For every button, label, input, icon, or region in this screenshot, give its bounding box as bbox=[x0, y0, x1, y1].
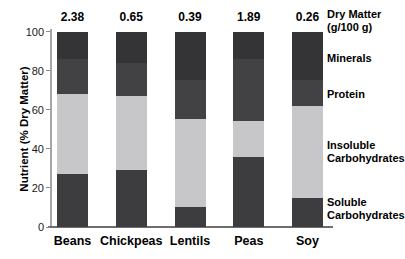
y-axis-line bbox=[50, 29, 52, 227]
legend-insoluble-line1: Insoluble bbox=[327, 139, 405, 152]
y-tick-mark bbox=[46, 70, 50, 71]
dry-matter-value: 2.38 bbox=[51, 11, 95, 24]
y-tick-mark bbox=[46, 227, 50, 228]
y-tick-label: 100 bbox=[14, 27, 44, 38]
x-category-label: Soy bbox=[272, 235, 344, 248]
dry-matter-header-line2: (g/100 g) bbox=[327, 21, 372, 34]
bar-segment-minerals bbox=[233, 32, 264, 59]
bar-segment-protein bbox=[116, 63, 147, 96]
bar-segment-soluble-carbohydrates bbox=[57, 174, 88, 227]
y-tick-mark bbox=[46, 31, 50, 32]
y-tick-label: 40 bbox=[14, 144, 44, 155]
legend-soluble-line1: Soluble bbox=[327, 196, 405, 209]
y-tick-label: 0 bbox=[14, 222, 44, 233]
bar-segment-soluble-carbohydrates bbox=[292, 198, 323, 227]
legend-insoluble-line2: Carbohydrates bbox=[327, 152, 405, 165]
bar-segment-minerals bbox=[116, 32, 147, 63]
bar-segment-insoluble-carbohydrates bbox=[175, 119, 206, 207]
dry-matter-value: 0.26 bbox=[286, 11, 330, 24]
y-tick-label: 80 bbox=[14, 66, 44, 77]
dry-matter-value: 1.89 bbox=[227, 11, 271, 24]
bar-segment-protein bbox=[57, 59, 88, 94]
bar-segment-insoluble-carbohydrates bbox=[233, 121, 264, 156]
y-tick-label: 60 bbox=[14, 105, 44, 116]
y-tick-mark bbox=[46, 148, 50, 149]
bar-segment-soluble-carbohydrates bbox=[175, 207, 206, 227]
bar-segment-soluble-carbohydrates bbox=[116, 170, 147, 227]
bar-segment-minerals bbox=[292, 32, 323, 81]
legend-soluble-line2: Carbohydrates bbox=[327, 209, 405, 222]
stacked-bar-chart: Nutrient (% Dry Matter) 0204060801002.38… bbox=[0, 0, 405, 259]
bar-segment-protein bbox=[292, 80, 323, 105]
bar-segment-minerals bbox=[57, 32, 88, 59]
bar-segment-insoluble-carbohydrates bbox=[116, 96, 147, 170]
bar-segment-protein bbox=[233, 59, 264, 122]
legend-minerals: Minerals bbox=[327, 52, 372, 65]
dry-matter-value: 0.39 bbox=[168, 11, 212, 24]
y-tick-mark bbox=[46, 187, 50, 188]
y-tick-label: 20 bbox=[14, 183, 44, 194]
bar-segment-insoluble-carbohydrates bbox=[292, 106, 323, 198]
bar-segment-insoluble-carbohydrates bbox=[57, 94, 88, 174]
dry-matter-header-line1: Dry Matter bbox=[327, 8, 381, 21]
bar-segment-soluble-carbohydrates bbox=[233, 157, 264, 227]
y-tick-mark bbox=[46, 109, 50, 110]
legend-soluble-carbohydrates: Soluble Carbohydrates bbox=[327, 196, 405, 222]
legend-insoluble-carbohydrates: Insoluble Carbohydrates bbox=[327, 139, 405, 165]
bar-segment-protein bbox=[175, 80, 206, 119]
legend-protein: Protein bbox=[327, 88, 365, 101]
bar-segment-minerals bbox=[175, 32, 206, 81]
dry-matter-value: 0.65 bbox=[109, 11, 153, 24]
